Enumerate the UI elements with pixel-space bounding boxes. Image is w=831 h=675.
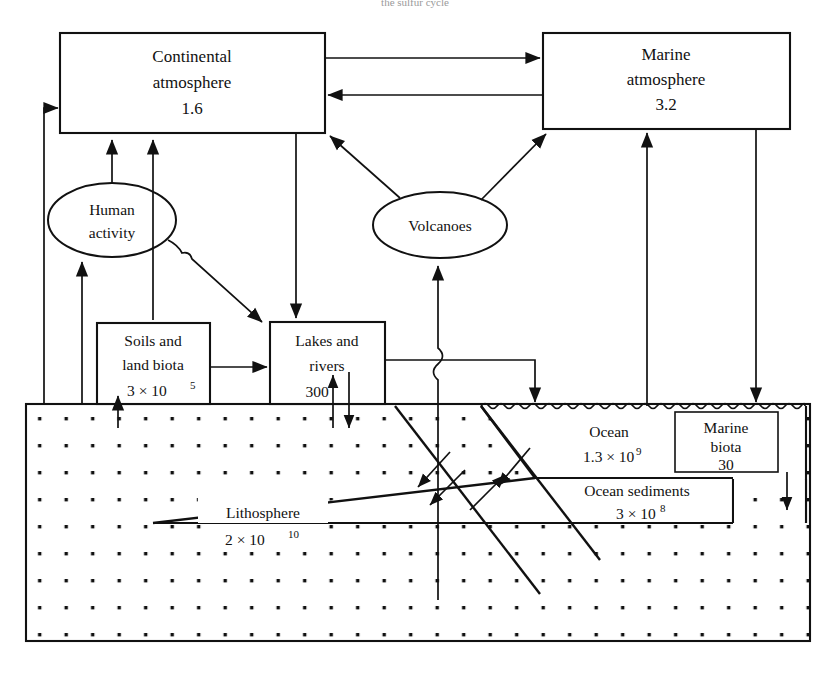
- figure-caption-partial: the sulfur cycle: [381, 0, 449, 8]
- flow-volcanoes-to-marine: [481, 134, 546, 200]
- marine-biota-box[interactable]: Marine biota 30: [675, 412, 778, 473]
- lakes-value: 300: [305, 383, 329, 400]
- lakes-line1: Lakes and: [295, 332, 359, 349]
- soils-land-biota-box[interactable]: Soils and land biota 3 × 10 5: [97, 323, 210, 404]
- soils-value-exponent: 5: [190, 379, 196, 391]
- soils-value-mantissa: 3 × 10: [127, 382, 167, 399]
- continental-atmosphere-value: 1.6: [181, 99, 202, 118]
- ocean-sediments-value-exponent: 8: [660, 502, 666, 514]
- marine-biota-line2: biota: [711, 438, 742, 455]
- human-activity-line1: Human: [89, 201, 135, 218]
- figure-canvas: Continental atmosphere 1.6 Marine atmosp…: [0, 0, 831, 675]
- ocean-value-exponent: 9: [636, 445, 642, 457]
- marine-atmosphere-value: 3.2: [655, 95, 676, 114]
- human-activity-line2: activity: [89, 224, 136, 241]
- lithosphere-name: Lithosphere: [226, 504, 300, 521]
- marine-biota-value: 30: [718, 456, 734, 473]
- ocean-name: Ocean: [589, 423, 629, 440]
- flow-volcanoes-to-continental: [330, 136, 400, 198]
- lithosphere-label: Lithosphere 2 × 10 10: [198, 498, 328, 550]
- volcanoes-label: Volcanoes: [408, 217, 471, 234]
- continental-atmosphere-line2: atmosphere: [153, 73, 231, 92]
- continental-atmosphere-line1: Continental: [152, 47, 232, 66]
- volcanoes-ellipse[interactable]: Volcanoes: [373, 192, 507, 258]
- sediment-right-stipple: [734, 479, 806, 523]
- flow-lithosphere-to-continental: [44, 108, 58, 404]
- lakes-line2: rivers: [309, 357, 344, 374]
- ocean-sediments-name: Ocean sediments: [584, 482, 689, 499]
- marine-atmosphere-line1: Marine: [641, 45, 690, 64]
- ocean-value-mantissa: 1.3 × 10: [583, 448, 635, 465]
- ocean-sediments-value-mantissa: 3 × 10: [616, 505, 656, 522]
- flow-lakes-to-ocean: [385, 360, 535, 402]
- marine-atmosphere-line2: atmosphere: [627, 70, 705, 89]
- lithosphere-value-exponent: 10: [288, 528, 300, 540]
- lithosphere-value-mantissa: 2 × 10: [225, 531, 265, 548]
- human-activity-ellipse[interactable]: Human activity: [48, 183, 176, 257]
- cycle-diagram-svg: Continental atmosphere 1.6 Marine atmosp…: [0, 0, 831, 675]
- soils-line2: land biota: [122, 356, 184, 373]
- continental-atmosphere-box[interactable]: Continental atmosphere 1.6: [60, 33, 325, 133]
- soils-line1: Soils and: [124, 332, 182, 349]
- flow-human-to-lakes: [168, 240, 262, 322]
- lakes-rivers-box[interactable]: Lakes and rivers 300: [270, 322, 385, 404]
- marine-biota-line1: Marine: [704, 419, 749, 436]
- marine-atmosphere-box[interactable]: Marine atmosphere 3.2: [543, 33, 790, 129]
